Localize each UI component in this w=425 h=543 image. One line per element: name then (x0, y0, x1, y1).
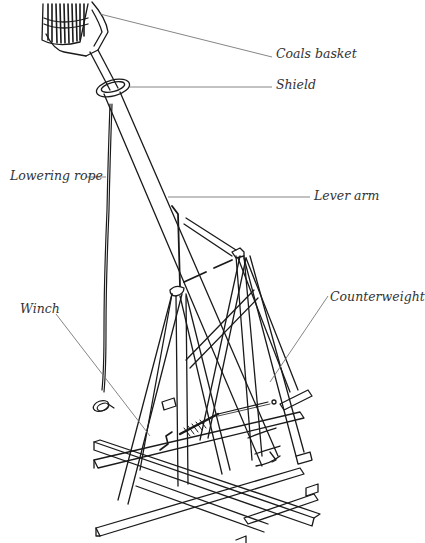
frame-legs-drawing (118, 256, 304, 504)
label-lowering-rope: Lowering rope (10, 170, 103, 183)
leader-winch (56, 314, 150, 436)
lever-arm-drawing (90, 50, 280, 466)
label-lever-arm: Lever arm (314, 190, 379, 203)
label-coals-basket: Coals basket (276, 48, 357, 61)
shield-drawing (95, 76, 132, 100)
pivot-frame-drawing (170, 206, 244, 296)
leader-counterweight (270, 296, 328, 382)
label-counterweight: Counterweight (330, 291, 425, 304)
lowering-rope-drawing (92, 104, 114, 413)
counterweight-drawing (270, 400, 276, 462)
label-shield: Shield (276, 79, 316, 92)
coals-basket-drawing (42, 2, 108, 56)
label-winch: Winch (20, 303, 60, 316)
leader-coals-basket (100, 14, 272, 57)
